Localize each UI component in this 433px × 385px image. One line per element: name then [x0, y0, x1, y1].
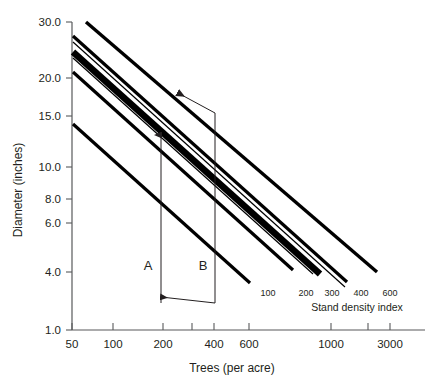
y-axis-tick-labels: 30.0 20.0 15.0 10.0 8.0 6.0 4.0 1.0 [39, 16, 61, 336]
sdi-legend-label-200: 200 [298, 288, 313, 298]
x-tick-label-1000: 1000 [318, 338, 344, 350]
y-tick-label-20: 20.0 [39, 72, 61, 84]
chart-svg: 30.0 20.0 15.0 10.0 8.0 6.0 4.0 1.0 50 1… [0, 0, 433, 385]
x-tick-label-400: 400 [204, 338, 223, 350]
sdi-legend-label-300: 300 [324, 288, 339, 298]
y-axis-title: Diameter (inches) [11, 143, 25, 238]
x-tick-label-200: 200 [153, 338, 172, 350]
sdi-legend: 100 200 300 400 600 Stand density index [260, 288, 403, 313]
x-axis-ticks [72, 323, 390, 330]
x-tick-label-100: 100 [103, 338, 122, 350]
sdi-line-300 [73, 52, 320, 274]
x-axis-title: Trees (per acre) [189, 361, 275, 375]
y-tick-label-1: 1.0 [45, 324, 61, 336]
sdi-line-600 [86, 22, 377, 272]
region-label-b: B [199, 258, 208, 273]
y-tick-label-6: 6.0 [45, 217, 61, 229]
sdi-line-300-thin [73, 58, 313, 274]
arrow-upper-diagonal [178, 93, 215, 113]
y-axis-ticks [66, 22, 72, 330]
y-tick-label-30: 30.0 [39, 16, 61, 28]
sdi-legend-label-100: 100 [260, 288, 275, 298]
x-tick-label-50: 50 [66, 338, 79, 350]
x-tick-label-3000: 3000 [377, 338, 403, 350]
y-tick-label-10: 10.0 [39, 161, 61, 173]
x-axis-tick-labels: 50 100 200 400 600 1000 3000 [66, 338, 403, 350]
y-tick-label-8: 8.0 [45, 193, 61, 205]
sdi-curves [73, 22, 377, 287]
x-tick-label-600: 600 [239, 338, 258, 350]
sdi-legend-label-600: 600 [382, 288, 397, 298]
region-label-a: A [144, 258, 153, 273]
sdi-legend-label-400: 400 [353, 288, 368, 298]
y-tick-label-15: 15.0 [39, 110, 61, 122]
sdi-line-400-thin [73, 42, 345, 287]
stand-density-index-chart: 30.0 20.0 15.0 10.0 8.0 6.0 4.0 1.0 50 1… [0, 0, 433, 385]
y-tick-label-4: 4.0 [45, 266, 61, 278]
sdi-legend-title: Stand density index [311, 301, 403, 313]
arrow-thinning-to-a [161, 297, 215, 303]
